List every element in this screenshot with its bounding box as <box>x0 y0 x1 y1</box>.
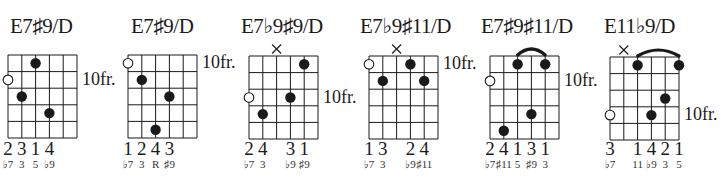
chord-diagram: E7♯9/D 10fr.1243♭73R♯9 <box>120 0 240 184</box>
finger-number: 2 <box>3 138 13 160</box>
finger-dot <box>44 108 54 118</box>
interval-label: 11 <box>632 158 643 170</box>
interval-label: ♭7 <box>485 158 496 171</box>
fret-position-label: 10fr. <box>82 69 116 90</box>
finger-dot <box>405 59 415 69</box>
interval-label: ♭7 <box>605 158 616 171</box>
chord-diagram: E11♭9/D 10fr.31421♭711♭935 <box>602 0 721 184</box>
finger-dot <box>258 109 268 119</box>
interval-label: ♭9 <box>285 158 296 171</box>
fret-position-label: 10fr. <box>443 53 477 74</box>
finger-number: 2 <box>660 138 670 160</box>
interval-label: ♭7 <box>364 158 375 171</box>
muted-string-x-icon <box>392 45 401 54</box>
finger-dot <box>164 91 174 101</box>
chord-diagram: E7♯9♯11/D 10fr.24131♭7♯115♯93 <box>482 0 602 184</box>
finger-number: 2 <box>485 138 495 160</box>
chord-diagram: E7♭9♯11/D 10fr.1324♭73♭9♯11 <box>361 0 481 184</box>
finger-number: 4 <box>419 138 429 160</box>
finger-number: 3 <box>286 138 296 160</box>
finger-number: 1 <box>123 138 133 160</box>
chord-diagram: E7♭9♯9/D 10fr.2431♭73♭9♯9 <box>241 0 361 184</box>
interval-label: ♭9 <box>646 158 657 171</box>
fret-position-label: 10fr. <box>684 104 718 125</box>
chord-diagram: E7♯9/D 10fr.2314♭735♭9 <box>0 0 120 184</box>
finger-dot <box>17 91 27 101</box>
finger-dot <box>419 76 429 86</box>
interval-label: ♯9 <box>164 158 175 170</box>
open-note-circle <box>123 59 133 69</box>
finger-number: 2 <box>137 138 147 160</box>
interval-label: 3 <box>260 158 266 170</box>
finger-dot <box>660 93 670 103</box>
finger-dot <box>499 126 509 136</box>
finger-dot <box>285 92 295 102</box>
finger-number: 2 <box>244 138 254 160</box>
interval-label: ♯9 <box>299 158 310 170</box>
finger-number: 3 <box>378 138 388 160</box>
finger-number: 1 <box>31 138 41 160</box>
finger-dot <box>150 125 160 135</box>
finger-number: 3 <box>605 138 615 160</box>
interval-label: 5 <box>515 158 521 170</box>
interval-label: 3 <box>139 158 145 170</box>
finger-number: 1 <box>299 138 309 160</box>
finger-number: 4 <box>151 138 161 160</box>
open-note-circle <box>244 93 254 103</box>
interval-label: ♭7 <box>244 158 255 171</box>
interval-label: ♯11 <box>496 158 512 170</box>
finger-dot <box>540 59 550 69</box>
finger-number: 3 <box>17 138 27 160</box>
interval-label: 3 <box>19 158 25 170</box>
muted-string-x-icon <box>619 46 628 55</box>
open-note-circle <box>485 76 495 86</box>
open-note-circle <box>364 60 374 70</box>
finger-dot <box>646 110 656 120</box>
muted-string-x-icon <box>272 45 281 54</box>
finger-number: 2 <box>406 138 416 160</box>
finger-number: 1 <box>674 138 684 160</box>
interval-label: 5 <box>676 158 682 170</box>
finger-dot <box>137 75 147 85</box>
finger-number: 4 <box>258 138 268 160</box>
fret-position-label: 10fr. <box>202 52 236 73</box>
interval-label: 3 <box>380 158 386 170</box>
interval-label: ♭7 <box>123 158 134 171</box>
interval-label: 3 <box>662 158 668 170</box>
finger-number: 3 <box>527 138 537 160</box>
finger-number: 4 <box>45 138 55 160</box>
finger-dot <box>512 59 522 69</box>
interval-label: 5 <box>33 158 39 170</box>
finger-number: 4 <box>499 138 509 160</box>
finger-number: 1 <box>513 138 523 160</box>
interval-label: ♭9 <box>44 158 55 171</box>
finger-number: 4 <box>647 138 657 160</box>
finger-dot <box>30 58 40 68</box>
finger-dot <box>526 109 536 119</box>
finger-dot <box>674 60 684 70</box>
fret-position-label: 10fr. <box>564 70 598 91</box>
finger-number: 1 <box>540 138 550 160</box>
open-note-circle <box>3 75 13 85</box>
barre-arc <box>638 50 679 56</box>
open-note-circle <box>605 110 615 120</box>
interval-label: ♭9 <box>405 158 416 171</box>
interval-label: ♯9 <box>526 158 537 170</box>
finger-dot <box>632 60 642 70</box>
fret-position-label: 10fr. <box>323 87 357 108</box>
interval-label: R <box>152 158 159 170</box>
barre-arc <box>518 49 546 55</box>
finger-dot <box>378 76 388 86</box>
finger-number: 1 <box>364 138 374 160</box>
finger-dot <box>299 59 309 69</box>
interval-label: ♯11 <box>416 158 432 170</box>
interval-label: ♭7 <box>3 158 14 171</box>
finger-number: 3 <box>165 138 175 160</box>
finger-number: 1 <box>633 138 643 160</box>
interval-label: 3 <box>542 158 548 170</box>
